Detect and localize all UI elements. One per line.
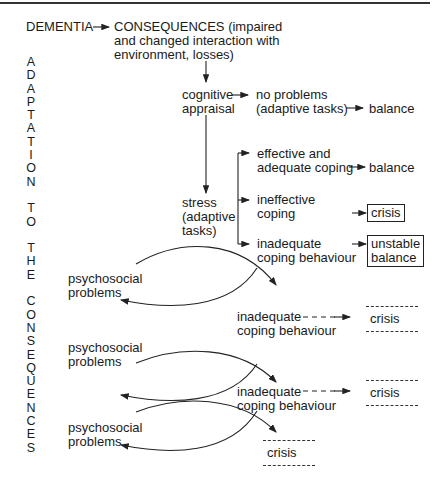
consequences-line-1: CONSEQUENCES (impaired (114, 20, 282, 34)
cognitive-line-1: cognitive (182, 88, 233, 102)
psychosocial-2-line-1: psychosocial (68, 341, 142, 355)
balance-2: balance (369, 161, 415, 175)
crisis-dashed-2: crisis (366, 306, 418, 332)
inadequate-3-line-1: inadequate (237, 385, 301, 399)
unstable-balance-box: unstable balance (367, 235, 424, 267)
consequences-line-2: and changed interaction with (114, 34, 280, 48)
dementia-label: DEMENTIA (26, 20, 93, 34)
no-problems-line-2: (adaptive tasks) (256, 102, 348, 116)
psychosocial-2-line-2: problems (68, 355, 121, 369)
psychosocial-3-line-2: problems (68, 435, 121, 449)
inadequate-2-line-2: coping behaviour (237, 324, 336, 338)
inadequate-2-line-1: inadequate (237, 310, 301, 324)
consequences-line-3: environment, losses) (114, 48, 234, 62)
stress-line-3: tasks) (182, 224, 217, 238)
crisis-dashed-4: crisis (263, 440, 315, 466)
inadequate-1-line-2: coping behaviour (257, 251, 356, 265)
vertical-label: ADAPTATIONTOTHECONSEQUENCES (24, 56, 38, 455)
crisis-box: crisis (367, 204, 405, 222)
crisis-dashed-3: crisis (366, 380, 418, 406)
stress-line-1: stress (182, 196, 217, 210)
effective-line-2: adequate coping (257, 161, 353, 175)
cognitive-line-2: appraisal (182, 102, 235, 116)
psychosocial-1-line-1: psychosocial (68, 272, 142, 286)
no-problems-line-1: no problems (256, 88, 328, 102)
stress-line-2: (adaptive (182, 210, 235, 224)
ineffective-line-1: ineffective (257, 193, 315, 207)
ineffective-line-2: coping (257, 207, 295, 221)
inadequate-1-line-1: inadequate (257, 237, 321, 251)
psychosocial-3-line-1: psychosocial (68, 421, 142, 435)
balance-1: balance (369, 102, 415, 116)
psychosocial-1-line-2: problems (68, 286, 121, 300)
inadequate-3-line-2: coping behaviour (237, 399, 336, 413)
effective-line-1: effective and (257, 147, 330, 161)
